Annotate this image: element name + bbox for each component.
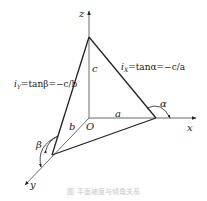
figure-caption: 图 平面坡度与倾角关系 (0, 186, 207, 196)
segment-a-label: a (115, 108, 121, 119)
y-axis (25, 118, 89, 185)
alpha-label: α (160, 98, 167, 109)
segment-c-label: c (92, 63, 98, 74)
formula-ix: iX=tanα=−c/a (121, 62, 186, 73)
beta-arc (40, 136, 58, 167)
z-axis-label: z (78, 8, 85, 19)
x-axis-label: x (187, 122, 193, 133)
segment-b-label: b (69, 121, 75, 132)
beta-label: β (35, 139, 42, 150)
edge-y-to-x (52, 118, 156, 155)
plane-slope-diagram: z x y O a b c α β iX=tanα=−c/a iY=tanβ=−… (0, 0, 207, 201)
edge-apex-to-x (89, 37, 156, 118)
origin-label: O (86, 121, 94, 132)
formula-iy: iY=tanβ=−c/b (14, 79, 78, 90)
